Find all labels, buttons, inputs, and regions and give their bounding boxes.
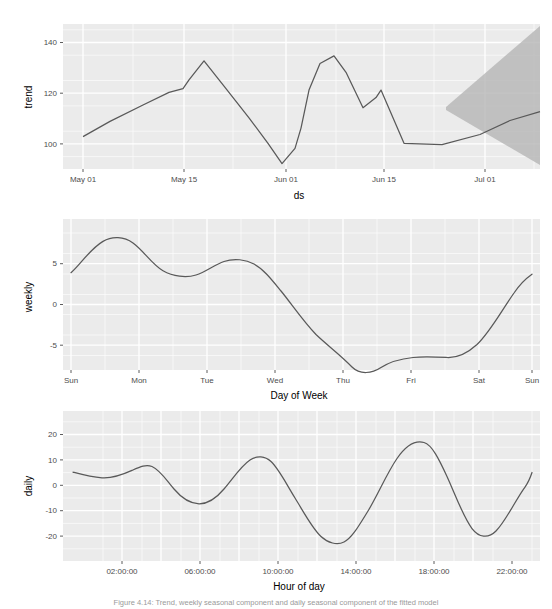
weekly-ytick-1: 0 xyxy=(53,300,58,309)
daily-xaxis-title: Hour of day xyxy=(273,581,325,592)
weekly-ytick-0: -5 xyxy=(50,341,58,350)
trend-xtick-3: Jun 15 xyxy=(372,175,397,184)
trend-xaxis-title: ds xyxy=(294,190,305,201)
daily-ytick-2: 0 xyxy=(53,481,58,490)
weekly-svg: -5 0 5 Sun Mon Tue Wed Thu Fri Sat Sun D… xyxy=(0,205,552,403)
weekly-yaxis-title: weekly xyxy=(23,282,34,314)
daily-xtick-3: 14:00:00 xyxy=(340,567,372,576)
weekly-xaxis-title: Day of Week xyxy=(270,390,328,401)
daily-ytick-0: -20 xyxy=(45,532,57,541)
daily-xtick-5: 22:00:00 xyxy=(496,567,528,576)
trend-xtick-1: May 15 xyxy=(171,175,198,184)
daily-plot-bg xyxy=(63,411,540,561)
trend-yaxis-title: trend xyxy=(23,86,34,109)
daily-panel: -20 -10 0 10 20 02:00:00 06:00:00 10:00:… xyxy=(0,403,552,603)
trend-xtick-4: Jul 01 xyxy=(474,175,496,184)
daily-yaxis-title: daily xyxy=(23,476,34,497)
weekly-xtick-3: Wed xyxy=(267,376,283,385)
weekly-xtick-7: Sun xyxy=(525,376,539,385)
prophet-components-figure: 100 120 140 May 01 May 15 Jun 01 Jun 15 … xyxy=(0,0,552,609)
trend-panel: 100 120 140 May 01 May 15 Jun 01 Jun 15 … xyxy=(0,0,552,205)
daily-xtick-2: 10:00:00 xyxy=(262,567,294,576)
trend-xtick-0: May 01 xyxy=(70,175,97,184)
daily-xtick-1: 06:00:00 xyxy=(184,567,216,576)
daily-svg: -20 -10 0 10 20 02:00:00 06:00:00 10:00:… xyxy=(0,403,552,603)
weekly-xtick-0: Sun xyxy=(64,376,78,385)
weekly-panel: -5 0 5 Sun Mon Tue Wed Thu Fri Sat Sun D… xyxy=(0,205,552,403)
weekly-xtick-4: Thu xyxy=(336,376,350,385)
daily-ytick-4: 20 xyxy=(48,430,57,439)
weekly-ytick-2: 5 xyxy=(53,259,58,268)
figure-caption: Figure 4.14: Trend, weekly seasonal comp… xyxy=(0,597,552,608)
daily-ytick-1: -10 xyxy=(45,506,57,515)
weekly-xtick-1: Mon xyxy=(131,376,147,385)
trend-ytick-0: 100 xyxy=(44,140,58,149)
weekly-xtick-5: Fri xyxy=(406,376,416,385)
weekly-xtick-2: Tue xyxy=(200,376,214,385)
weekly-xtick-6: Sat xyxy=(473,376,486,385)
daily-xtick-0: 02:00:00 xyxy=(106,567,138,576)
trend-xtick-2: Jun 01 xyxy=(274,175,299,184)
trend-svg: 100 120 140 May 01 May 15 Jun 01 Jun 15 … xyxy=(0,0,552,205)
trend-ytick-2: 140 xyxy=(44,38,58,47)
daily-xtick-4: 18:00:00 xyxy=(418,567,450,576)
trend-ytick-1: 120 xyxy=(44,89,58,98)
daily-ytick-3: 10 xyxy=(48,456,57,465)
